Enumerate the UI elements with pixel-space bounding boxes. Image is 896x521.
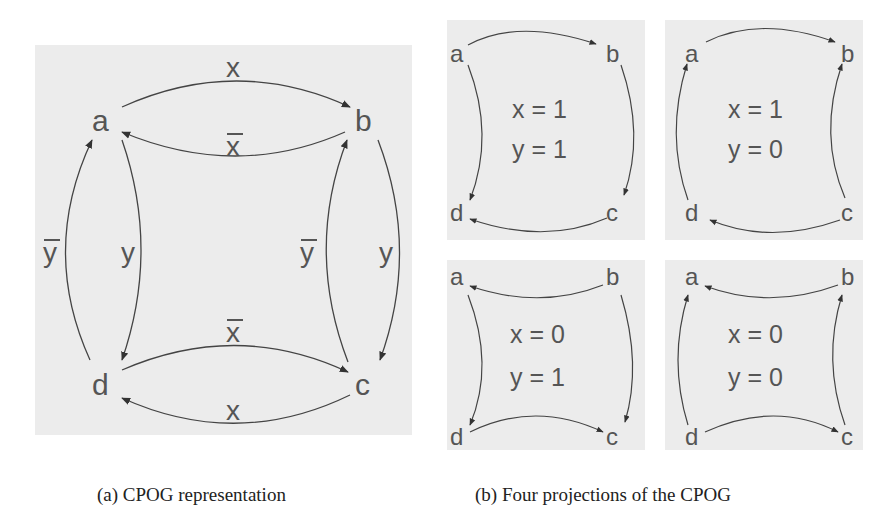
node-a: a [450,40,464,67]
node-b: b [841,263,854,290]
caption-a: (a) CPOG representation [97,484,286,506]
projection-condition-y: y = 0 [728,363,783,391]
projection-condition-x: x = 1 [728,95,783,123]
node-b: b [606,263,619,290]
projection-condition-y: y = 1 [512,135,567,163]
projection-x0-y1: a b c d x = 0 y = 1 [450,263,633,450]
node-a: a [685,263,699,290]
node-d: d [685,199,698,226]
node-d: d [685,423,698,450]
node-c: c [606,423,618,450]
projection-condition-x: x = 1 [512,95,567,123]
projections-svg: a b c d x = 1 y = 1 a b c d x = 1 y = 0 … [0,0,896,521]
projection-condition-y: y = 1 [510,363,565,391]
projection-x1-y0: a b c d x = 1 y = 0 [676,29,854,233]
node-a: a [450,263,464,290]
node-c: c [841,423,853,450]
projection-x0-y0: a b c d x = 0 y = 0 [678,263,854,450]
node-b: b [841,40,854,67]
node-d: d [450,199,463,226]
node-b: b [606,40,619,67]
node-a: a [685,40,699,67]
projection-condition-y: y = 0 [728,135,783,163]
projection-condition-x: x = 0 [510,320,565,348]
node-c: c [841,199,853,226]
caption-b: (b) Four projections of the CPOG [475,484,731,506]
projection-x1-y1: a b c d x = 1 y = 1 [450,31,634,232]
node-c: c [606,199,618,226]
node-d: d [450,423,463,450]
projection-condition-x: x = 0 [728,320,783,348]
